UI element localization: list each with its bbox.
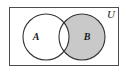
set-b-label: B <box>83 31 91 42</box>
set-a-label: A <box>32 31 40 42</box>
universal-set-label: U <box>107 8 116 20</box>
venn-diagram-canvas: A B U <box>0 0 128 74</box>
venn-diagram-figure: A B U <box>0 0 128 74</box>
